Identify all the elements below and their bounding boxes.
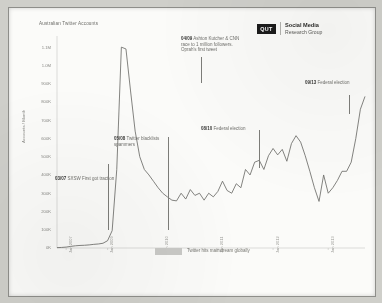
y-axis-tick-label: 1.0M — [29, 63, 51, 68]
y-axis-tick-label: 800K — [29, 99, 51, 104]
x-axis-tick-label: Jan 2013 — [330, 236, 335, 253]
annotation-date: 04/09 — [181, 36, 192, 41]
y-axis-tick-label: 0K — [29, 245, 51, 250]
y-axis-tick-label: 300K — [29, 191, 51, 196]
annotation-headline: Twitter — [125, 136, 141, 141]
annotation-leader-line — [201, 57, 202, 83]
chart-paper: QUT Social Media Research Group Australi… — [8, 7, 376, 297]
y-axis-tick-label: 700K — [29, 118, 51, 123]
annotation-04-09: 04/09 Ashton Kutcher & CNN race to 1 mil… — [181, 36, 247, 53]
annotation-05-08: 05/08 Twitter blacklists spammers — [114, 136, 166, 147]
annotation-date: 03/07 — [55, 176, 66, 181]
annotation-leader-line — [349, 95, 350, 114]
annotation-leader-line — [168, 137, 169, 230]
annotation-leader-line — [259, 130, 260, 168]
annotation-08-10: 08/10 Federal election — [201, 126, 253, 132]
x-axis-tick-label: Jan 2012 — [275, 236, 280, 253]
annotation-leader-line — [108, 164, 109, 230]
mainstream-swatch — [155, 248, 182, 255]
annotation-headline: Federal — [212, 126, 230, 131]
annotation-headline: SXSW — [66, 176, 82, 181]
x-axis-tick-label: Jan 2007 — [68, 236, 73, 253]
y-axis-tick-label: 900K — [29, 81, 51, 86]
y-axis-tick-label: 500K — [29, 154, 51, 159]
y-axis-tick-label: 600K — [29, 136, 51, 141]
annotation-body: election — [230, 126, 246, 131]
y-axis-tick-label: 400K — [29, 172, 51, 177]
annotation-date: 05/08 — [114, 136, 125, 141]
y-axis-tick-label: 1.1M — [29, 45, 51, 50]
annotation-headline: Federal — [316, 80, 334, 85]
annotation-date: 08/10 — [201, 126, 212, 131]
mainstream-label: Twitter hits mainstream globally — [187, 248, 250, 253]
y-axis-tick-label: 200K — [29, 209, 51, 214]
y-axis-tick-label: 100K — [29, 227, 51, 232]
annotation-body: election — [334, 80, 350, 85]
axis-spines — [57, 36, 365, 248]
annotation-09-13: 09/13 Federal election — [305, 80, 357, 86]
annotation-headline: Ashton Kutcher — [192, 36, 225, 41]
annotation-date: 09/13 — [305, 80, 316, 85]
screenshot-root: QUT Social Media Research Group Australi… — [0, 0, 382, 303]
annotation-body: First got traction — [82, 176, 114, 181]
x-axis-tick-label: Jan 2009 — [109, 236, 114, 253]
data-line-australian-twitter-accounts — [57, 47, 365, 248]
